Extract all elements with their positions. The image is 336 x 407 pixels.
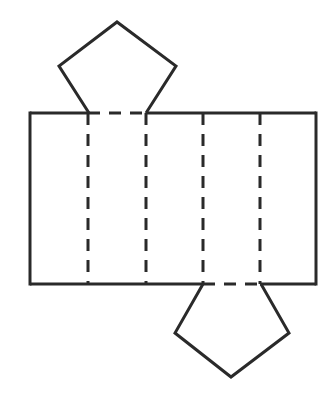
prism-net-diagram [0,0,336,407]
lateral-faces-rectangle [30,112,316,286]
bottom-pentagon-outline [175,284,289,377]
top-pentagon-outline [59,22,176,113]
top-pentagon-base [59,22,176,113]
bottom-pentagon-base [175,284,289,377]
fold-lines [88,113,260,284]
